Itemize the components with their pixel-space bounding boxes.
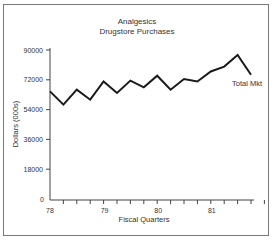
x-tick-label: 79	[101, 207, 109, 214]
y-tick-label: 0	[40, 196, 44, 203]
y-tick-label: 18000	[24, 166, 44, 173]
chart-subtitle: Drugstore Purchases	[99, 27, 174, 36]
y-tick-label: 54000	[24, 106, 44, 113]
x-tick-label: 80	[154, 207, 162, 214]
y-axis: 90000720005400036000180000	[24, 47, 50, 203]
x-tick-label: 78	[46, 207, 54, 214]
y-tick-label: 90000	[24, 47, 44, 54]
chart-title: Analgesics	[118, 17, 157, 26]
series-label-total-mkt: Total Mkt	[232, 79, 263, 88]
x-tick-label: 81	[208, 207, 216, 214]
y-tick-label: 72000	[24, 76, 44, 83]
x-axis: 78798081	[46, 200, 264, 214]
y-tick-label: 36000	[24, 136, 44, 143]
y-axis-label: Dollars (000s)	[11, 100, 20, 147]
total-mkt-line	[50, 55, 251, 105]
line-chart: Analgesics Drugstore Purchases 900007200…	[0, 0, 275, 242]
x-axis-label: Fiscal Quarters	[119, 215, 170, 224]
